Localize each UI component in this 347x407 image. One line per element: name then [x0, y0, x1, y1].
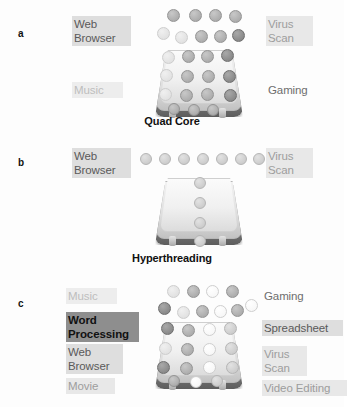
- chip-pin: [169, 236, 176, 246]
- label-c-right-3[interactable]: Video Editing: [262, 380, 347, 396]
- thread-dot: [189, 9, 202, 22]
- core-dot: [203, 361, 216, 374]
- thread-dot: [245, 299, 258, 312]
- core-dot: [181, 70, 194, 83]
- core-dot: [201, 88, 214, 101]
- core-dot: [221, 49, 234, 62]
- core-dot: [161, 322, 174, 335]
- label-c-left-0[interactable]: Music: [66, 288, 117, 304]
- thread-dot: [158, 302, 171, 315]
- label-c-right-2[interactable]: Virus Scan: [262, 346, 307, 376]
- thread-dot: [197, 153, 209, 165]
- core-dot: [182, 50, 195, 63]
- core-dot: [160, 69, 173, 82]
- panel-c: c Music Word Processing Web Browser Movi…: [0, 270, 344, 407]
- thread-dot: [159, 153, 171, 165]
- thread-dot: [206, 285, 219, 298]
- caption-b: Hyperthreading: [0, 252, 344, 264]
- core-dot: [225, 342, 238, 355]
- label-a-right-1[interactable]: Gaming: [266, 82, 327, 98]
- thread-dot: [157, 27, 170, 40]
- core-dot: [224, 322, 237, 335]
- core-dot: [168, 103, 180, 115]
- thread-dot: [226, 285, 239, 298]
- panel-letter-c: c: [18, 298, 24, 309]
- core-dot: [194, 217, 206, 229]
- thread-dot: [167, 9, 180, 22]
- label-b-left-0[interactable]: Web Browser: [72, 148, 131, 178]
- thread-dot: [187, 285, 200, 298]
- thread-dot: [178, 153, 190, 165]
- thread-dot: [167, 285, 180, 298]
- panel-a: a Web Browser Music Virus Scan Gaming: [0, 0, 344, 135]
- thread-dot: [232, 29, 245, 42]
- core-dot: [194, 177, 206, 189]
- label-c-right-1[interactable]: Spreadsheet: [262, 320, 343, 336]
- core-dot: [162, 51, 175, 64]
- label-c-left-3[interactable]: Movie: [66, 378, 115, 394]
- core-dot: [203, 323, 216, 336]
- core-dot: [223, 70, 236, 83]
- panel-b: b Web Browser Virus Scan: [0, 135, 344, 270]
- thread-dot: [209, 9, 222, 22]
- thread-dot: [140, 153, 152, 165]
- core-dot: [157, 361, 170, 374]
- core-dot: [203, 343, 216, 356]
- thread-dot: [195, 30, 208, 43]
- core-dot: [180, 362, 193, 375]
- thread-dot: [253, 153, 265, 165]
- core-dot: [194, 235, 206, 247]
- core-dot: [194, 197, 206, 209]
- core-dot: [224, 89, 237, 102]
- chip-pin: [219, 236, 226, 246]
- core-dot: [182, 324, 195, 337]
- core-dot: [168, 375, 180, 387]
- core-dot: [181, 343, 194, 356]
- core-dot: [159, 88, 172, 101]
- thread-dot: [214, 30, 227, 43]
- panel-letter-a: a: [18, 28, 24, 39]
- label-c-left-1[interactable]: Word Processing: [66, 312, 139, 342]
- core-dot: [159, 342, 172, 355]
- panel-letter-b: b: [18, 157, 24, 168]
- thread-dot: [235, 153, 247, 165]
- core-dot: [201, 50, 214, 63]
- thread-dot: [229, 10, 242, 23]
- core-dot: [211, 375, 223, 387]
- label-b-right-0[interactable]: Virus Scan: [266, 148, 313, 178]
- label-a-left-0[interactable]: Web Browser: [72, 16, 131, 46]
- label-c-right-0[interactable]: Gaming: [262, 288, 323, 304]
- label-a-left-1[interactable]: Music: [72, 82, 123, 98]
- caption-a: Quad Core: [0, 115, 344, 127]
- thread-dot: [216, 153, 228, 165]
- core-dot: [190, 376, 202, 388]
- core-dot: [180, 89, 193, 102]
- core-dot: [202, 70, 215, 83]
- label-a-right-0[interactable]: Virus Scan: [266, 16, 313, 46]
- core-dot: [226, 361, 239, 374]
- label-c-left-2[interactable]: Web Browser: [66, 344, 123, 374]
